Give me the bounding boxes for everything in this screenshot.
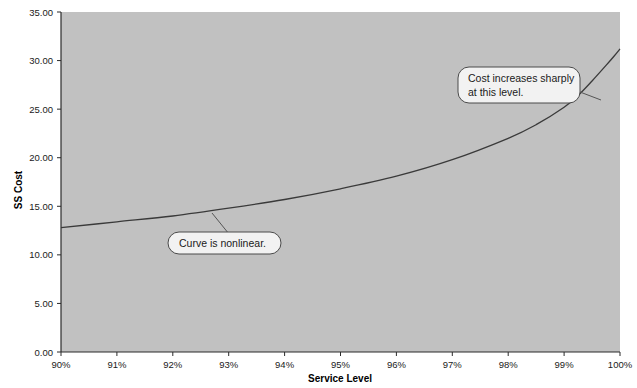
y-axis-tick-label: 0.00 [35, 347, 54, 358]
x-axis-tick-label: 91% [107, 359, 127, 370]
x-axis-tick-label: 97% [443, 359, 463, 370]
annotation-nonlinear-text-line-1: Curve is nonlinear. [179, 237, 266, 249]
y-axis-title: SS Cost [13, 170, 24, 209]
x-axis-tick-label: 93% [219, 359, 239, 370]
ss-cost-service-level-chart: 0.005.0010.0015.0020.0025.0030.0035.00 9… [0, 0, 637, 388]
x-axis-tick-label: 100% [608, 359, 633, 370]
x-axis-tick-label: 95% [331, 359, 351, 370]
y-axis-tick-label: 20.00 [29, 152, 53, 163]
x-axis-tick-label: 90% [51, 359, 71, 370]
y-axis-tick-label: 25.00 [29, 104, 53, 115]
annotation-cost-increase-text-line-1: Cost increases sharply [468, 72, 575, 84]
annotation-cost-increase-text-line-2: at this level. [468, 86, 523, 98]
y-axis-tick-label: 10.00 [29, 249, 53, 260]
y-axis-ticks: 0.005.0010.0015.0020.0025.0030.0035.00 [29, 7, 61, 358]
x-axis-tick-label: 92% [163, 359, 183, 370]
chart-canvas: 0.005.0010.0015.0020.0025.0030.0035.00 9… [0, 0, 637, 388]
x-axis-tick-label: 94% [275, 359, 295, 370]
plot-area-background [61, 12, 620, 352]
y-axis-tick-label: 35.00 [29, 7, 53, 18]
x-axis-tick-label: 96% [387, 359, 407, 370]
y-axis-tick-label: 30.00 [29, 55, 53, 66]
y-axis-tick-label: 5.00 [35, 298, 54, 309]
x-axis-tick-label: 99% [555, 359, 575, 370]
x-axis-tick-label: 98% [499, 359, 519, 370]
y-axis-tick-label: 15.00 [29, 201, 53, 212]
x-axis-ticks: 90%91%92%93%94%95%96%97%98%99%100% [51, 352, 632, 370]
x-axis-title: Service Level [308, 373, 372, 384]
